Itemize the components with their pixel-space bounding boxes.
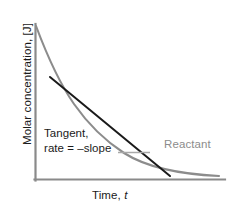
reactant-curve-label: Reactant xyxy=(164,137,211,151)
y-axis-label: Molar concentration, [J] xyxy=(20,0,34,169)
tangent-annotation-line2: rate = –slope xyxy=(44,141,111,155)
x-axis-label-text: Time, xyxy=(92,189,124,201)
tangent-annotation-line1: Tangent, xyxy=(44,127,89,139)
plot-canvas xyxy=(0,0,230,212)
reaction-rate-figure: Molar concentration, [J] Time, t Tangent… xyxy=(0,0,230,212)
tangent-annotation: Tangent,rate = –slope xyxy=(44,126,111,155)
x-axis-label: Time, t xyxy=(92,188,127,202)
x-axis-label-symbol: t xyxy=(124,189,127,201)
